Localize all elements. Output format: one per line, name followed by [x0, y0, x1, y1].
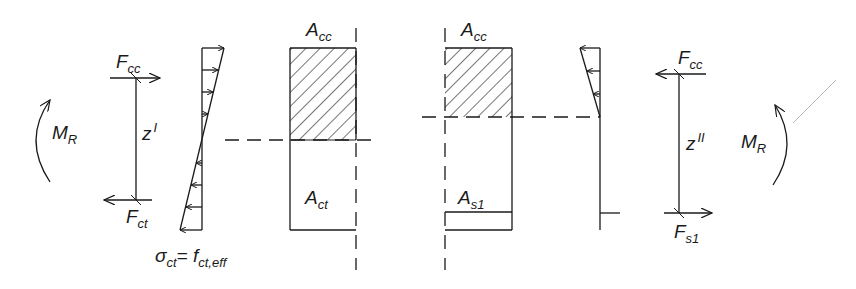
- fs1-label-right: Fs1: [674, 222, 699, 241]
- moment-label-left: MR: [52, 123, 77, 142]
- stray-pencil-mark: [793, 80, 836, 123]
- z-label-left: zI: [142, 124, 157, 143]
- z-label-right: zII: [686, 134, 705, 153]
- act-label-left: Act: [305, 188, 328, 207]
- moment-arc-right: [773, 105, 787, 185]
- acc-label-right: Acc: [461, 20, 487, 39]
- moment-label-right: MR: [741, 132, 766, 151]
- moment-arc-left: [36, 100, 50, 182]
- stress-diagram-state-1: [180, 48, 224, 230]
- stress-diagram-state-2: [580, 48, 620, 230]
- fcc-label-left: Fcc: [116, 52, 141, 71]
- as1-label-right: As1: [458, 188, 484, 207]
- diagram-canvas: [0, 0, 856, 289]
- stress-label: σct= fct,eff: [155, 246, 226, 265]
- acc-label-left: Acc: [306, 20, 332, 39]
- fcc-label-right: Fcc: [678, 48, 703, 67]
- fct-label-left: Fct: [126, 207, 148, 226]
